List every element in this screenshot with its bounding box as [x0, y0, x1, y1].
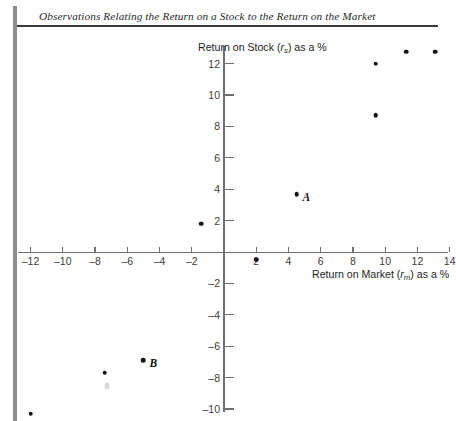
x-tick-mark: [449, 247, 450, 252]
x-tick-label: 10: [379, 255, 391, 267]
data-point: [199, 221, 204, 226]
y-tick-label: 6: [196, 152, 220, 164]
y-tick-mark: [225, 283, 234, 284]
y-tick-mark: [225, 408, 234, 409]
x-tick-label: 8: [350, 255, 356, 267]
y-tick-mark: [225, 220, 234, 221]
y-tick-label: –10: [196, 403, 220, 415]
y-tick-label: 4: [196, 183, 220, 195]
x-tick-label: 12: [412, 255, 424, 267]
x-tick-mark: [352, 247, 353, 252]
x-tick-label: 6: [318, 255, 324, 267]
x-tick-label: 14: [444, 255, 456, 267]
y-tick-mark: [225, 314, 234, 315]
y-tick-mark: [225, 126, 234, 127]
data-point: [294, 192, 299, 197]
y-tick-mark: [225, 157, 234, 158]
y-axis-line: [223, 46, 224, 412]
x-tick-mark: [256, 247, 257, 252]
point-annotation-a: A: [303, 191, 311, 203]
x-tick-mark: [417, 247, 418, 252]
point-annotation-b: B: [149, 357, 157, 369]
y-tick-mark: [225, 94, 234, 95]
y-tick-label: –6: [196, 340, 220, 352]
x-tick-mark: [320, 247, 321, 252]
y-tick-mark: [225, 377, 234, 378]
x-tick-label: –8: [89, 255, 101, 267]
data-point: [373, 61, 378, 66]
x-tick-mark: [30, 247, 31, 252]
y-tick-mark: [225, 63, 234, 64]
x-tick-mark: [127, 247, 128, 252]
x-tick-mark: [385, 247, 386, 252]
y-tick-label: –4: [196, 309, 220, 321]
smudge-artifact: [105, 383, 110, 390]
x-tick-label: –10: [54, 255, 72, 267]
x-tick-mark: [191, 247, 192, 252]
y-axis-title: Return on Stock (rs) as a %: [198, 41, 327, 55]
x-tick-label: –2: [186, 255, 198, 267]
y-tick-label: –2: [196, 277, 220, 289]
y-tick-label: –8: [196, 372, 220, 384]
x-tick-label: –12: [22, 255, 40, 267]
y-tick-mark: [225, 346, 234, 347]
y-tick-label: 10: [196, 89, 220, 101]
x-tick-label: –6: [121, 255, 133, 267]
data-point: [254, 258, 259, 263]
data-point: [141, 358, 146, 363]
data-point: [28, 411, 33, 416]
x-axis-title: Return on Market (rm) as a %: [312, 268, 449, 282]
x-axis-line: [18, 252, 448, 253]
y-tick-mark: [225, 189, 234, 190]
x-tick-mark: [62, 247, 63, 252]
y-tick-label: 8: [196, 120, 220, 132]
x-tick-mark: [94, 247, 95, 252]
data-point: [404, 50, 409, 55]
data-point: [433, 50, 438, 55]
x-tick-mark: [288, 247, 289, 252]
x-tick-label: –4: [154, 255, 166, 267]
data-point: [373, 113, 378, 118]
x-tick-label: 4: [286, 255, 292, 267]
y-tick-label: 12: [196, 58, 220, 70]
data-point: [102, 371, 107, 376]
x-tick-mark: [159, 247, 160, 252]
